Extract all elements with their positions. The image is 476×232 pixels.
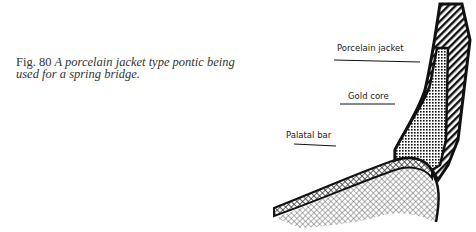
label-palatal-bar: Palatal bar <box>286 130 331 140</box>
label-porcelain-jacket: Porcelain jacket <box>337 43 404 53</box>
leader-palatal-bar <box>294 144 336 146</box>
label-gold-core: Gold core <box>348 91 389 101</box>
gold-core <box>395 48 448 170</box>
leader-porcelain-jacket <box>334 60 420 62</box>
pontic-cross-section-diagram <box>0 0 476 232</box>
